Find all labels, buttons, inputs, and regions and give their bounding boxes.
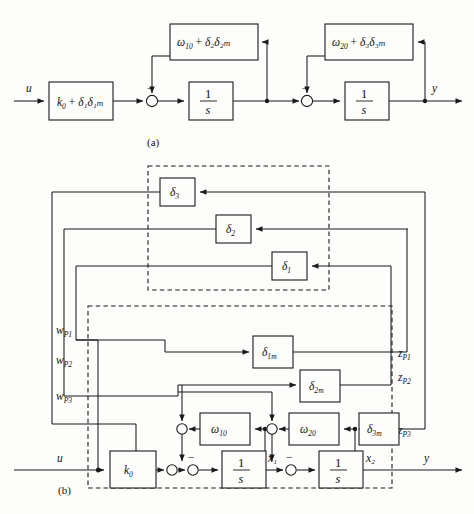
signal-label-x2: x₂ <box>365 452 375 464</box>
summer-b-in2 <box>188 465 198 475</box>
summer-b-in3 <box>286 465 296 475</box>
block-diagram-svg: u k0 + δ₁δ₁ₘ − 1 s <box>0 0 474 514</box>
signal-label-u-a: u <box>26 82 32 94</box>
summer-b-omega2 <box>267 424 277 434</box>
caption-b: (b) <box>58 484 71 497</box>
summer-a1-sign: − <box>147 81 154 95</box>
int-a1-denominator: s <box>206 103 211 117</box>
delta3m-sub: 3m <box>371 429 382 438</box>
label-zp1: zP1 <box>397 347 411 362</box>
signal-label-y-b: y <box>423 452 430 465</box>
int-b2-numerator: 1 <box>335 456 341 470</box>
fb-a1-base: ω <box>177 36 185 48</box>
omega10-base: ω <box>211 423 219 435</box>
k0-sub: 0 <box>129 470 133 479</box>
summer-a1 <box>146 95 157 106</box>
int-a2-denominator: s <box>362 103 367 117</box>
summer-a2-sign: − <box>302 81 309 95</box>
summer-a2 <box>301 95 312 106</box>
int-b2-denominator: s <box>336 472 341 486</box>
diagram-b: δ3 δ2 δ1 wP1 <box>14 166 462 497</box>
delta1-sub: 1 <box>287 266 291 275</box>
label-zp2: zP2 <box>397 371 411 386</box>
delta3-sub: 3 <box>174 192 179 201</box>
omega20-base: ω <box>300 423 308 435</box>
caption-a: (a) <box>147 136 160 149</box>
summer-b-in2-sign: − <box>188 450 195 464</box>
fb-a1-term: δ₂δ₂ₘ <box>205 36 231 48</box>
omega10-sub: 10 <box>219 429 227 438</box>
summer-b-in3-sign: − <box>286 450 293 464</box>
delta2-sub: 2 <box>231 229 235 238</box>
omega20-sub: 20 <box>308 429 316 438</box>
signal-label-x1: x₁ <box>267 452 277 464</box>
block-k0 <box>110 451 156 488</box>
delta2m-sub: 2m <box>314 386 324 395</box>
signal-label-u-b: u <box>57 452 63 464</box>
delta1m-sub: 1m <box>267 352 277 361</box>
signal-label-y-a: y <box>431 82 438 95</box>
fb-a2-base: ω <box>332 36 340 48</box>
figure-container: u k0 + δ₁δ₁ₘ − 1 s <box>0 0 474 514</box>
int-b1-denominator: s <box>239 472 244 486</box>
int-a2-numerator: 1 <box>361 87 367 101</box>
summer-b-in1 <box>167 465 177 475</box>
fb-a2-term: δ₃δ₃ₘ <box>360 36 386 48</box>
int-b1-numerator: 1 <box>238 456 244 470</box>
diagram-a: u k0 + δ₁δ₁ₘ − 1 s <box>14 24 462 149</box>
gain-a-term: δ₁δ₁ₘ <box>78 96 104 108</box>
int-a1-numerator: 1 <box>205 87 211 101</box>
summer-b-omega1 <box>177 424 187 434</box>
